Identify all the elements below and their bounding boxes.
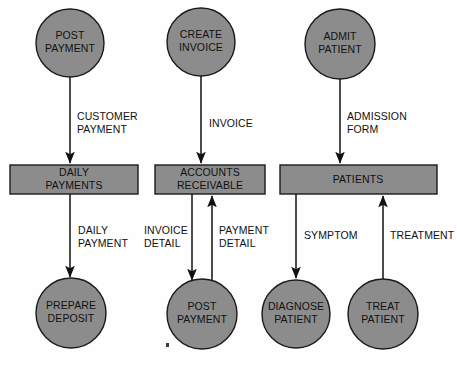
data-store-daily-payments-line1: DAILY — [59, 166, 89, 178]
flow-label-admission-form-line1: ADMISSION — [347, 110, 407, 122]
data-store-accounts-receivable-line2: RECEIVABLE — [177, 179, 243, 191]
process-post-payment-bottom[interactable]: POST PAYMENT — [167, 279, 237, 349]
flow-label-invoice-line1: INVOICE — [209, 117, 253, 129]
flow-label-treatment: TREATMENT — [390, 229, 455, 241]
process-treat-patient-line1: TREAT — [366, 300, 401, 312]
flow-label-admission-form-line2: FORM — [347, 123, 378, 135]
flow-label-payment-detail-line2: DETAIL — [219, 237, 256, 249]
process-diagnose-patient-line1: DIAGNOSE — [268, 300, 324, 312]
process-diagnose-patient[interactable]: DIAGNOSE PATIENT — [262, 280, 330, 348]
process-prepare-deposit[interactable]: PREPARE DEPOSIT — [36, 278, 106, 348]
process-post-payment-bottom-line1: POST — [188, 300, 217, 312]
data-store-accounts-receivable[interactable]: ACCOUNTS RECEIVABLE — [155, 165, 265, 194]
flow-label-payment-detail: PAYMENT DETAIL — [219, 224, 269, 249]
process-admit-patient-line1: ADMIT — [323, 30, 357, 42]
scan-speck-artifact — [166, 343, 169, 347]
process-create-invoice-line1: CREATE — [180, 28, 222, 40]
data-store-daily-payments[interactable]: DAILY PAYMENTS — [10, 165, 138, 194]
flow-label-treatment-line1: TREATMENT — [390, 229, 455, 241]
data-store-patients[interactable]: PATIENTS — [280, 165, 437, 194]
dataflow-diagram: DAILY PAYMENTS ACCOUNTS RECEIVABLE PATIE… — [0, 0, 457, 368]
flow-label-symptom-line1: SYMPTOM — [304, 229, 358, 241]
flow-label-customer-payment: CUSTOMER PAYMENT — [77, 110, 138, 135]
process-prepare-deposit-line1: PREPARE — [46, 299, 96, 311]
process-treat-patient-line2: PATIENT — [361, 313, 405, 325]
dataflow-diagram-canvas: DAILY PAYMENTS ACCOUNTS RECEIVABLE PATIE… — [0, 0, 457, 368]
process-create-invoice[interactable]: CREATE INVOICE — [167, 8, 235, 76]
process-post-payment-bottom-line2: PAYMENT — [177, 313, 227, 325]
flow-label-payment-detail-line1: PAYMENT — [219, 224, 269, 236]
flow-label-customer-payment-line1: CUSTOMER — [77, 110, 138, 122]
flow-label-admission-form: ADMISSION FORM — [347, 110, 407, 135]
process-diagnose-patient-line2: PATIENT — [274, 313, 318, 325]
data-store-patients-line1: PATIENTS — [333, 173, 384, 185]
flow-label-invoice-detail-line2: DETAIL — [144, 237, 181, 249]
process-prepare-deposit-line2: DEPOSIT — [48, 312, 95, 324]
process-post-payment-top-line1: POST — [56, 29, 85, 41]
flow-label-invoice: INVOICE — [209, 117, 253, 129]
process-treat-patient[interactable]: TREAT PATIENT — [348, 279, 418, 349]
data-store-daily-payments-line2: PAYMENTS — [45, 179, 102, 191]
flow-label-invoice-detail-line1: INVOICE — [144, 224, 188, 236]
flow-label-customer-payment-line2: PAYMENT — [77, 123, 127, 135]
process-create-invoice-line2: INVOICE — [179, 41, 223, 53]
flow-label-invoice-detail: INVOICE DETAIL — [144, 224, 188, 249]
process-admit-patient-line2: PATIENT — [318, 43, 362, 55]
flow-label-symptom: SYMPTOM — [304, 229, 358, 241]
flow-label-daily-payment-line2: PAYMENT — [78, 237, 128, 249]
process-post-payment-top-line2: PAYMENT — [45, 42, 95, 54]
flow-label-daily-payment-line1: DAILY — [78, 224, 108, 236]
data-stores-group: DAILY PAYMENTS ACCOUNTS RECEIVABLE PATIE… — [10, 165, 437, 194]
data-store-accounts-receivable-line1: ACCOUNTS — [180, 166, 240, 178]
process-admit-patient[interactable]: ADMIT PATIENT — [305, 9, 375, 79]
process-post-payment-top[interactable]: POST PAYMENT — [36, 9, 104, 77]
flow-label-daily-payment: DAILY PAYMENT — [78, 224, 128, 249]
